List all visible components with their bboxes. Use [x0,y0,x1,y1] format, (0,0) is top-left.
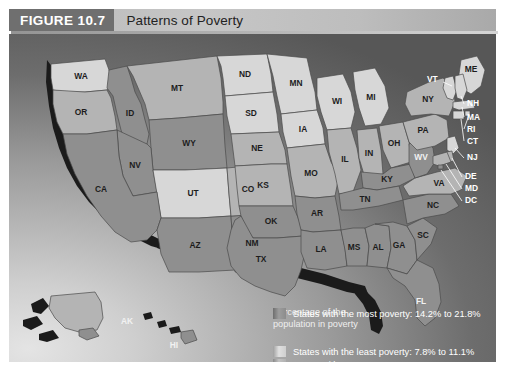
label-hi: HI [170,340,178,350]
label-nd: ND [239,69,251,79]
label-ca: CA [95,184,107,194]
callout-nj: NJ [467,152,478,162]
label-mn: MN [289,78,302,88]
label-ne: NE [251,143,263,153]
label-il: IL [341,154,348,164]
legend-item-least: States with the least poverty: 7.8% to 1… [273,345,474,358]
label-wa: WA [74,71,88,81]
figure-number: FIGURE 10.7 [9,9,114,31]
label-or: OR [75,107,88,117]
figure-header: FIGURE 10.7 Patterns of Poverty [9,9,496,31]
label-in: IN [365,148,373,158]
label-mo: MO [304,168,318,178]
figure-title: Patterns of Poverty [114,9,243,31]
label-wy: WY [182,138,196,148]
legend-item-most: States with the most poverty: 14.2% to 2… [273,307,481,320]
label-ga: GA [393,240,406,250]
callout-nh: NH [467,98,479,108]
least-poverty-swatch [273,346,286,357]
label-sd: SD [245,108,257,118]
label-ks: KS [257,180,269,190]
label-tx: TX [256,254,267,264]
label-ut: UT [187,188,199,198]
label-id: ID [126,108,134,118]
legend-title-line2: population in poverty [273,319,358,329]
label-ar: AR [311,208,323,218]
label-ms: MS [348,242,361,252]
state-ct [453,111,464,119]
callout-de: DE [465,171,477,181]
legend-label-most: States with the most poverty: 14.2% to 2… [293,309,481,319]
label-co: CO [242,184,255,194]
label-ok: OK [265,216,278,226]
average-poverty-swatch [273,359,286,362]
label-ak: AK [121,316,133,326]
label-ia: IA [299,124,307,134]
label-mi: MI [366,92,375,102]
label-la: LA [315,244,326,254]
label-oh: OH [388,138,401,148]
label-ny: NY [422,94,434,104]
map-panel: WA OR ID MT WY NV UT CA AZ NM CO ND SD N… [9,34,496,362]
legend-label-average: States with average poverty: 11.4% to 13… [293,360,478,363]
legend-item-average: States with average poverty: 11.4% to 13… [273,358,478,362]
label-nm: NM [245,238,258,248]
label-wi: WI [332,96,342,106]
label-pa: PA [417,125,428,135]
map-legend: Percentage of the population in poverty … [267,307,496,362]
label-mt: MT [171,83,184,93]
label-nv: NV [129,160,141,170]
callout-ma: MA [467,112,480,122]
callout-ri: RI [467,124,475,134]
label-va: VA [433,178,444,188]
legend-label-least: States with the least poverty: 7.8% to 1… [293,347,474,357]
label-al: AL [372,242,383,252]
hawaii-inset [143,312,197,344]
most-poverty-swatch [273,308,286,319]
state-dc [438,165,443,169]
label-me: ME [465,64,478,74]
figure-container: FIGURE 10.7 Patterns of Poverty [0,0,505,372]
callout-dc: DC [465,195,477,205]
alaska-inset [23,292,103,342]
label-az: AZ [189,240,200,250]
callout-md: MD [465,183,478,193]
label-tn: TN [359,194,370,204]
label-nc: NC [427,200,439,210]
callout-vt: VT [427,74,439,84]
callout-ct: CT [467,136,479,146]
label-fl: FL [416,296,426,306]
label-ky: KY [381,174,393,184]
label-sc: SC [417,230,429,240]
label-wv: WV [414,152,428,162]
